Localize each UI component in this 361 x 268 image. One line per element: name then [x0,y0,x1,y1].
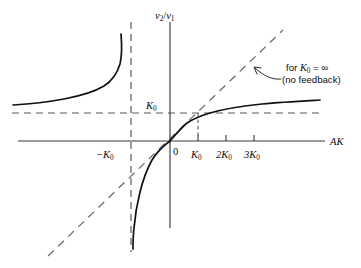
figure-container: v2/v1 AK 0 K0 −K0 K0 2K0 3K0 for K0 = ∞ [0,0,361,268]
gain-curve-left-branch-upper [13,34,122,105]
no-feedback-asymptote-line [48,30,283,256]
annotation-leader-line [255,68,281,79]
x-tick-label-K0: K0 [190,149,202,162]
gain-curve-right-branch [170,100,320,141]
y-tick-label-K0: K0 [145,100,157,113]
x-tick-label-minus-K0: −K0 [96,149,114,162]
x-tick-label-3K0: 3K0 [243,149,260,162]
origin-label: 0 [173,146,178,157]
x-axis-label: AK [329,136,344,147]
y-axis-label: v2/v1 [155,10,175,23]
annotation-line2: (no feedback) [282,74,341,85]
x-tick-label-2K0: 2K0 [216,149,232,162]
gain-curve-plot: v2/v1 AK 0 K0 −K0 K0 2K0 3K0 for K0 = ∞ [0,0,361,268]
